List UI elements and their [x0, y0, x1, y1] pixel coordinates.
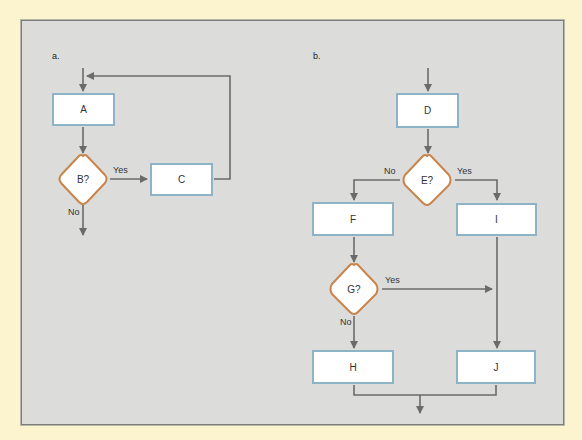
process-h-label: H: [349, 362, 356, 373]
process-c-label: C: [178, 174, 185, 185]
process-i-label: I: [495, 214, 498, 225]
e-yes-arrow: [455, 180, 497, 200]
diagram-a-label: a.: [52, 51, 60, 61]
g-no-label: No: [340, 317, 352, 327]
decision-e-label: E?: [421, 175, 433, 186]
process-a-label: A: [80, 104, 87, 115]
process-box-i: I: [456, 203, 537, 236]
decision-b-label: B?: [77, 174, 89, 185]
process-f-label: F: [350, 214, 356, 225]
process-box-f: F: [312, 202, 394, 236]
b-no-label: No: [68, 207, 80, 217]
h-j-join-line: [354, 385, 496, 395]
diagram-b-label: b.: [313, 51, 321, 61]
decision-g-label: G?: [347, 284, 360, 295]
e-no-label: No: [384, 166, 396, 176]
process-box-a: A: [52, 93, 115, 126]
e-no-arrow: [354, 180, 400, 200]
process-box-j: J: [456, 350, 536, 384]
process-box-c: C: [150, 163, 213, 196]
process-d-label: D: [424, 105, 431, 116]
b-yes-label: Yes: [113, 165, 128, 175]
process-j-label: J: [494, 362, 499, 373]
g-yes-label: Yes: [385, 275, 400, 285]
process-box-h: H: [312, 350, 394, 384]
process-box-d: D: [396, 93, 459, 128]
e-yes-label: Yes: [457, 166, 472, 176]
